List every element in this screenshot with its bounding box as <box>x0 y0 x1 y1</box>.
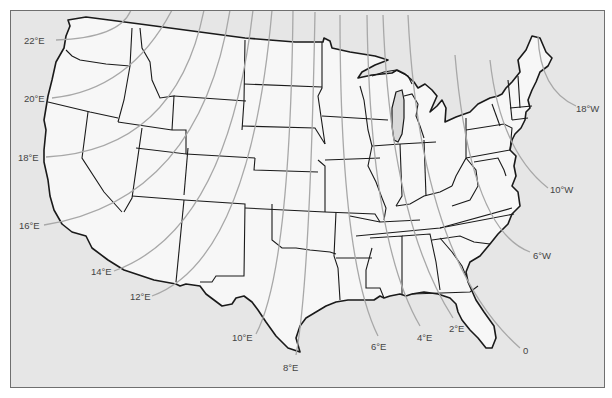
us-landmass <box>44 17 552 352</box>
label-18E: 18°E <box>18 152 39 163</box>
label-22E: 22°E <box>24 35 45 46</box>
label-16E: 16°E <box>19 220 40 231</box>
label-8E: 8°E <box>283 362 298 373</box>
label-10W: 10°W <box>550 184 573 195</box>
label-0: 0 <box>523 345 528 356</box>
label-10E: 10°E <box>232 332 253 343</box>
label-6W: 6°W <box>533 250 551 261</box>
label-6E: 6°E <box>371 341 386 352</box>
label-12E: 12°E <box>130 291 151 302</box>
label-14E: 14°E <box>91 266 112 277</box>
label-18W: 18°W <box>576 103 599 114</box>
label-4E: 4°E <box>417 332 432 343</box>
label-20E: 20°E <box>24 93 45 104</box>
us-map <box>0 0 612 398</box>
label-2E: 2°E <box>449 323 464 334</box>
